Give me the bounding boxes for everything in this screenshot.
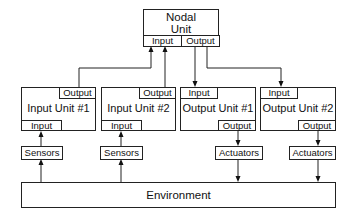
input-unit-2-input-port: Input	[101, 120, 142, 131]
input-unit-2-output-port: Output	[139, 87, 176, 99]
input-unit-1: Output Input Unit #1 Input	[21, 87, 96, 131]
output-unit-1-label: Output Unit #1	[181, 102, 255, 114]
output-unit-2-label: Output Unit #2	[261, 102, 335, 114]
nodal-unit-title-line2: Unit	[144, 23, 218, 35]
environment: Environment	[21, 182, 336, 208]
output-unit-1-input-port: Input	[180, 87, 218, 99]
environment-label: Environment	[22, 189, 335, 202]
output-unit-2: Input Output Unit #2 Output	[260, 87, 336, 131]
nodal-output-port: Output	[181, 35, 220, 47]
input-unit-1-label: Input Unit #1	[22, 102, 95, 114]
input-unit-1-input-port: Input	[21, 120, 62, 131]
nodal-unit: Nodal Unit Input Output	[143, 9, 219, 46]
nodal-input-port: Input	[143, 35, 182, 47]
output-unit-1: Input Output Unit #1 Output	[180, 87, 256, 131]
input-unit-1-output-port: Output	[59, 87, 96, 99]
output-unit-2-output-port: Output	[298, 120, 336, 131]
output-unit-2-input-port: Input	[260, 87, 298, 99]
sensors-2: Sensors	[100, 146, 143, 160]
actuators-1: Actuators	[215, 146, 263, 160]
sensors-1: Sensors	[21, 146, 63, 160]
input-unit-2: Output Input Unit #2 Input	[101, 87, 176, 131]
output-unit-1-output-port: Output	[218, 120, 256, 131]
nodal-unit-title-line1: Nodal	[144, 11, 218, 23]
input-unit-2-label: Input Unit #2	[102, 102, 175, 114]
actuators-2: Actuators	[289, 146, 336, 160]
